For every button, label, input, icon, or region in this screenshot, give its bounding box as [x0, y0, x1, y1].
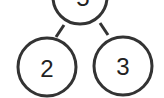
node-root: 5: [53, 0, 107, 24]
edge-root-right: [100, 23, 108, 35]
node-right: 3: [94, 37, 152, 95]
node-root-label: 5: [76, 0, 89, 11]
node-left-label: 2: [40, 55, 53, 82]
node-right-label: 3: [116, 53, 129, 80]
edge-root-left: [56, 25, 64, 37]
node-left: 2: [18, 38, 76, 96]
tree-diagram: 5 2 3: [0, 0, 164, 98]
